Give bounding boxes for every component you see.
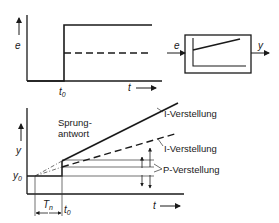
block-input-label: e	[174, 40, 180, 51]
annotation-p-verstellung: P-Verstellung	[163, 164, 220, 175]
leader-i2	[158, 139, 163, 146]
block-ramp	[193, 39, 240, 50]
step-response-chart: y Sprung- antwort I-Verstellung I-Verste…	[12, 103, 220, 216]
pi-controller-diagram: e t0 t e y y	[0, 0, 279, 223]
block-output-label: y	[257, 40, 264, 51]
t0-label: t0	[64, 204, 71, 216]
top-x-label: t	[128, 82, 132, 93]
pi-block-symbol: e y	[167, 35, 269, 73]
annotation-i-verstellung-1: I-Verstellung	[164, 108, 217, 119]
response-baseline-step	[27, 161, 62, 176]
bottom-y-label: y	[15, 145, 22, 156]
bottom-x-label: t	[153, 200, 157, 211]
sprung-label-1: Sprung-	[58, 117, 92, 128]
tn-label: Tn	[43, 199, 53, 211]
annotation-i-verstellung-2: I-Verstellung	[164, 143, 217, 154]
top-y-label: e	[15, 40, 21, 51]
sprung-label-2: antwort	[58, 128, 90, 139]
leader-p	[154, 164, 162, 172]
input-step-chart: e t0 t	[15, 15, 162, 98]
block-axes	[193, 38, 246, 66]
block-frame	[185, 35, 251, 73]
y0-label: y0	[12, 170, 22, 182]
top-t0-label: t0	[59, 86, 66, 98]
